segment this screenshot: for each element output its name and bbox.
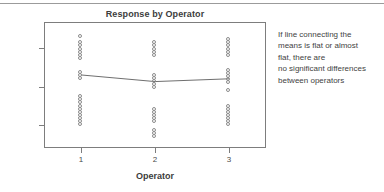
data-point [78, 56, 82, 60]
annotation-line: flat, there are [278, 52, 384, 63]
data-point [152, 53, 156, 57]
data-point [152, 85, 156, 89]
slide-canvas: Response by Operator 10.009.759.50 123 O… [0, 0, 384, 192]
annotation-line: no significant differences [278, 63, 384, 74]
data-point [78, 76, 82, 80]
annotation-line: between operators [278, 75, 384, 86]
annotation-text: If line connecting themeans is flat or a… [278, 29, 384, 86]
response-by-operator-chart: Response by Operator 10.009.759.50 123 O… [0, 0, 276, 192]
x-axis-title: Operator [44, 171, 266, 181]
data-point [78, 122, 82, 126]
mean-line [0, 0, 276, 192]
annotation-line: If line connecting the [278, 29, 384, 40]
annotation-line: means is flat or almost [278, 40, 384, 51]
data-point [226, 122, 230, 126]
data-point [152, 119, 156, 123]
data-point [226, 53, 230, 57]
